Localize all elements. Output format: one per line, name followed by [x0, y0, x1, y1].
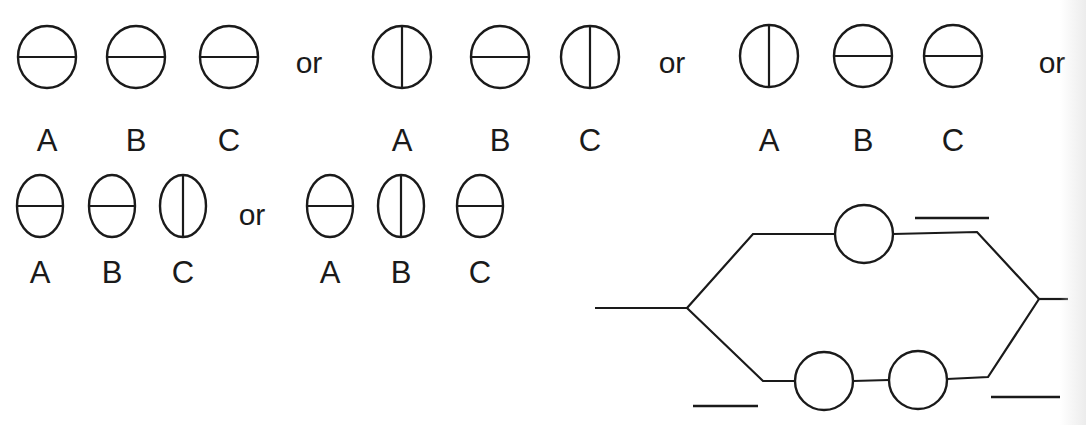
circuit-lower-branch-wire [687, 308, 795, 381]
or-connector: or [296, 48, 323, 78]
empty-switch-slot-icon [835, 205, 893, 263]
switch-label: B [102, 257, 123, 288]
switch-label: B [391, 257, 412, 288]
empty-switch-slot-icon [889, 351, 947, 409]
or-connector: or [659, 48, 686, 78]
switch-label: A [759, 125, 780, 156]
page-edge-shadow [1060, 0, 1086, 425]
empty-switch-slot-icon [795, 352, 853, 410]
switch-label: B [126, 125, 147, 156]
switch-label: A [320, 257, 341, 288]
switch-label: A [392, 125, 413, 156]
circuit-upper-branch-out-wire [893, 232, 1039, 299]
switch-label: B [853, 125, 874, 156]
switch-label: B [490, 125, 511, 156]
switch-label: C [579, 125, 601, 156]
or-connector: or [239, 200, 266, 230]
switch-label: A [30, 257, 51, 288]
circuit-lower-branch-out-wire [947, 299, 1039, 379]
switch-label: A [37, 125, 58, 156]
circuit-lower-middle-wire [853, 380, 889, 381]
diagram-canvas [0, 0, 1086, 425]
switch-label: C [218, 125, 240, 156]
switch-label: C [172, 257, 194, 288]
switch-label: C [469, 257, 491, 288]
circuit-upper-branch-wire [687, 234, 835, 308]
switch-label: C [942, 125, 964, 156]
